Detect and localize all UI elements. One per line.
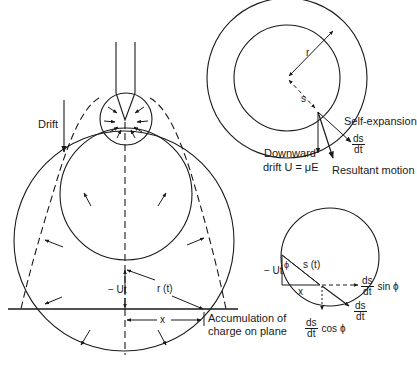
ds-dt-fraction: ds dt: [352, 134, 365, 155]
drift-label: Drift: [38, 118, 58, 130]
phi-label: ϕ: [284, 259, 289, 271]
cos-phi-text: cos ϕ: [322, 323, 346, 334]
sin-phi-text: sin ϕ: [378, 281, 399, 292]
radius-rt-line: [127, 270, 155, 280]
envelope-right: [150, 98, 226, 309]
needle-electrode-icon: [116, 42, 135, 120]
minus-ut-label: − Ut: [108, 284, 127, 296]
ds-dt-arrow: [322, 286, 349, 306]
middle-charge-circle: [60, 128, 192, 260]
r-label: r: [306, 47, 309, 59]
br-minus-ut-label: − Ut: [264, 265, 283, 277]
ds-dt-denominator: dt: [353, 145, 363, 155]
cos-component-label: ds dt cos ϕ: [305, 318, 346, 339]
downward-label-line1: Downward: [264, 147, 316, 159]
left-panel: [8, 42, 238, 355]
radius-rt-label: r (t): [157, 283, 173, 295]
initial-charge-circle: [100, 93, 152, 145]
resultant-motion-label: Resultant motion: [332, 164, 415, 176]
downward-label-line2: drift U = μE: [263, 161, 319, 173]
r-arrow: [289, 31, 333, 76]
top-right-panel: [207, 0, 367, 158]
inner-circle: [234, 25, 340, 131]
x-label: x: [160, 314, 165, 326]
s-t-label: s (t): [303, 259, 320, 271]
inward-field-arrows: [104, 107, 148, 138]
accumulation-label-line2: charge on plane: [208, 325, 287, 337]
s-label: s: [301, 93, 306, 105]
br-x-label: x: [298, 286, 303, 298]
envelope-left: [21, 98, 99, 309]
sin-component-label: ds dt sin ϕ: [361, 276, 399, 297]
resultant-ds-dt-label: ds dt: [354, 301, 367, 322]
self-expansion-label: Self-expansion: [344, 115, 417, 127]
accumulation-label-line1: Accumulation of: [208, 312, 286, 324]
